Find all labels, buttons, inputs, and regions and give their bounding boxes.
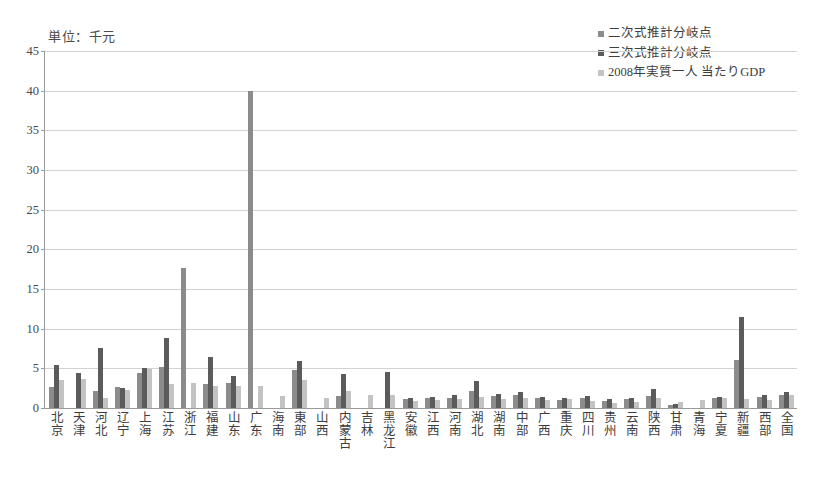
bar [656,398,661,408]
x-axis-label: 辽宁 [110,411,132,450]
x-axis-label: 山东 [221,411,243,450]
x-axis-label: 内蒙古 [332,411,354,450]
x-axis-label-text: 贵州 [602,411,615,450]
y-tick-label: 40 [27,83,40,98]
bar-group [576,51,598,408]
x-axis-label: 青海 [686,411,708,450]
bar-group [399,51,421,408]
x-axis-label-text: 東部 [292,411,305,450]
legend-swatch-icon [598,31,604,37]
x-axis-label-text: 四川 [580,411,593,450]
bar [678,402,683,408]
bar [191,383,196,408]
bar [479,397,484,408]
bar [413,401,418,408]
x-axis-label-text: 安徽 [403,411,416,450]
x-axis-label: 安徽 [398,411,420,450]
bar-group [665,51,687,408]
x-axis-label-text: 内蒙古 [336,411,349,450]
bar [545,400,550,408]
bar-group [89,51,111,408]
y-tick-label: 30 [27,163,40,178]
x-axis-label-text: 甘肃 [668,411,681,450]
bar-group [45,51,67,408]
bar [103,398,108,408]
x-axis-labels: 北京天津河北辽宁上海江苏浙江福建山东广东海南東部山西内蒙古吉林黑龙江安徽江西河南… [44,411,796,450]
y-tick-label: 5 [33,361,39,376]
y-tick-label: 20 [27,242,40,257]
bar [590,401,595,408]
bar-group [377,51,399,408]
x-axis-label: 湖南 [487,411,509,450]
y-tick-label: 0 [33,401,39,416]
x-axis-label: 海南 [265,411,287,450]
x-axis-label: 黑龙江 [376,411,398,450]
x-axis-label-text: 江苏 [159,411,172,450]
x-axis-label-text: 河南 [447,411,460,450]
bar [739,317,744,408]
x-axis-label-text: 江西 [425,411,438,450]
plot-area: 051015202530354045 [44,51,797,409]
chart-root: 単位：千元 二次式推計分岐点三次式推計分岐点2008年実質一人 当たりGDP 0… [0,0,831,490]
x-axis-label: 广东 [243,411,265,450]
bar-group [311,51,333,408]
y-tick-label: 25 [27,202,40,217]
x-axis-label: 新疆 [730,411,752,450]
bar [125,390,130,408]
bar-group [111,51,133,408]
x-axis-label-text: 全国 [779,411,792,450]
bar-group [178,51,200,408]
bar-group [775,51,797,408]
x-axis-label: 陕西 [641,411,663,450]
bar [258,386,263,408]
bar [722,398,727,408]
bar [767,400,772,408]
bar-group [642,51,664,408]
bar-group [709,51,731,408]
x-axis-label: 山西 [310,411,332,450]
bar [169,384,174,408]
bar [346,391,351,408]
bar-group [443,51,465,408]
bar [81,379,86,408]
bar-group [355,51,377,408]
y-tick-label: 45 [27,44,40,59]
x-axis-label: 宁夏 [708,411,730,450]
legend-item-0[interactable]: 二次式推計分岐点 [598,26,765,42]
bar [567,399,572,408]
x-axis-label-text: 中部 [513,411,526,450]
bar-group [134,51,156,408]
x-axis-label: 河北 [88,411,110,450]
x-axis-label-text: 河北 [93,411,106,450]
x-axis-label: 贵州 [597,411,619,450]
bar [147,369,152,408]
bar-group [288,51,310,408]
bar-group [244,51,266,408]
y-tickmark [41,408,45,409]
x-axis-label: 東部 [287,411,309,450]
x-axis-label: 河南 [442,411,464,450]
unit-caption: 単位：千元 [48,26,116,45]
bar-group [421,51,443,408]
bar-groups [45,51,797,408]
x-axis-label: 广西 [531,411,553,450]
x-axis-label: 全国 [774,411,796,450]
bar-group [510,51,532,408]
bar [612,403,617,408]
bar [59,380,64,408]
x-axis-label-text: 陕西 [646,411,659,450]
x-axis-label: 重庆 [553,411,575,450]
bar-group [731,51,753,408]
bar-group [67,51,89,408]
x-axis-label-text: 山东 [226,411,239,450]
bar [501,399,506,408]
bar [302,380,307,408]
x-axis-label: 江苏 [155,411,177,450]
bar-group [333,51,355,408]
bar [457,399,462,408]
bar [700,400,705,408]
x-axis-label-text: 广东 [248,411,261,450]
x-axis-label-text: 山西 [314,411,327,450]
x-axis-label-text: 宁夏 [712,411,725,450]
x-axis-label-text: 上海 [137,411,150,450]
